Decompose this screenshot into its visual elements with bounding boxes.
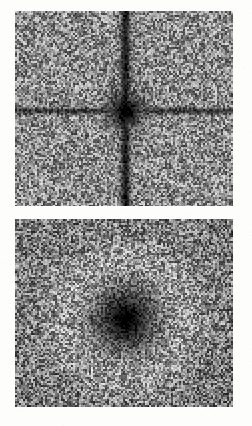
radial-spectrum-panel: Two-dimensional Fourier magnitude spectr… (15, 219, 233, 407)
cross-spectrum-image (15, 11, 233, 206)
cross-spectrum-panel: Two-dimensional Fourier magnitude spectr… (15, 11, 233, 206)
figure-caption (0, 0, 1, 1)
figure-root: Two-dimensional Fourier magnitude spectr… (0, 0, 252, 426)
radial-spectrum-image (15, 219, 233, 407)
